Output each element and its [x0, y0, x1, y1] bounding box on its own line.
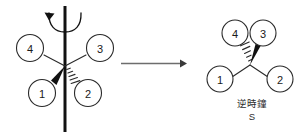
right-label-2: 2	[267, 66, 293, 92]
left-label-1: 1	[29, 80, 56, 107]
left-label-3-text: 3	[97, 43, 103, 55]
stereochemistry-figure: 4 3 1 2	[0, 0, 299, 137]
left-label-2-text: 2	[85, 88, 91, 100]
caption-direction-text: 逆時鐘	[237, 98, 267, 109]
right-label-4: 4	[222, 20, 248, 46]
left-label-1-text: 1	[39, 88, 45, 100]
right-label-3: 3	[250, 20, 276, 46]
left-label-4-text: 4	[27, 43, 33, 55]
right-label-3-text: 3	[260, 28, 266, 40]
caption-descriptor: S	[249, 111, 255, 122]
right-label-2-text: 2	[277, 74, 283, 86]
left-label-4: 4	[17, 35, 44, 62]
left-label-3: 3	[87, 35, 114, 62]
left-label-2: 2	[75, 80, 102, 107]
right-label-4-text: 4	[232, 28, 238, 40]
right-label-1: 1	[207, 66, 233, 92]
right-label-1-text: 1	[217, 74, 223, 86]
